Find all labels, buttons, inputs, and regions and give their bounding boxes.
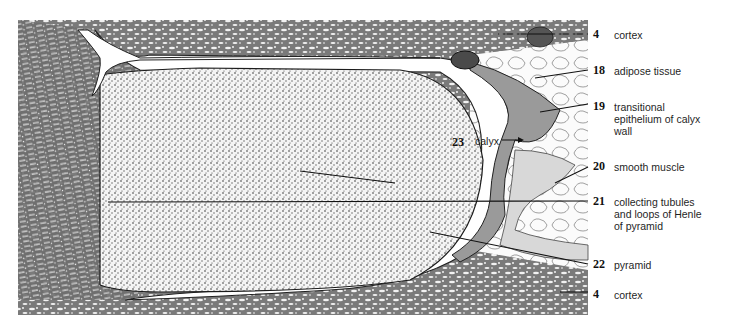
label-cortex-bottom: cortex bbox=[614, 289, 643, 301]
label-collecting-line2: and loops of Henle bbox=[614, 208, 702, 220]
label-transitional-line3: wall bbox=[614, 125, 632, 137]
label-number-18: 18 bbox=[593, 64, 605, 76]
label-number-19: 19 bbox=[593, 100, 605, 112]
label-transitional-line2: epithelium of calyx bbox=[614, 113, 700, 125]
label-number-22: 22 bbox=[593, 258, 605, 270]
label-smooth-muscle: smooth muscle bbox=[614, 161, 685, 173]
label-number-4-top: 4 bbox=[593, 28, 599, 40]
label-calyx: calyx bbox=[475, 135, 499, 147]
vessel-2 bbox=[527, 27, 553, 47]
label-adipose-tissue: adipose tissue bbox=[614, 65, 681, 77]
label-collecting-line1: collecting tubules bbox=[614, 196, 695, 208]
label-number-23: 23 bbox=[452, 135, 464, 150]
label-number-21: 21 bbox=[593, 195, 605, 207]
pyramid-region bbox=[100, 68, 483, 292]
label-pyramid: pyramid bbox=[614, 259, 651, 271]
label-collecting-line3: of pyramid bbox=[614, 220, 663, 232]
label-transitional-line1: transitional bbox=[614, 101, 665, 113]
label-number-20: 20 bbox=[593, 160, 605, 172]
vessel-1 bbox=[451, 51, 479, 69]
label-cortex-top: cortex bbox=[614, 29, 643, 41]
label-number-4-bottom: 4 bbox=[593, 288, 599, 300]
